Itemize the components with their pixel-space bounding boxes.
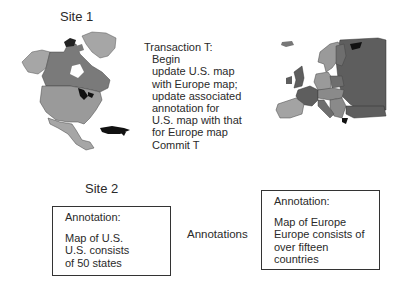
north-america-map [20,30,140,155]
annotation-europe-title: Annotation: [274,195,379,208]
transaction-line: annotation for [144,102,242,114]
transaction-line: U.S. map with that [144,114,242,126]
transaction-line: Commit T [144,139,242,151]
annotation-europe-line: countries [274,253,379,266]
annotation-us-title: Annotation: [65,211,170,224]
annotation-europe-box: Annotation: Map of Europe Europe consist… [261,190,380,270]
transaction-line: update U.S. map [144,65,242,77]
transaction-title: Transaction T: [144,41,242,53]
site-2-label: Site 2 [85,182,118,196]
transaction-line: with Europe map; [144,78,242,90]
site-1-label: Site 1 [60,10,93,24]
europe-map [272,38,390,124]
annotation-europe-line: Europe consists of [274,228,379,241]
transaction-line: update associated [144,90,242,102]
annotation-us-box: Annotation: Map of U.S. U.S. consists of… [52,206,171,276]
transaction-line: Begin [144,53,242,65]
annotation-us-line: Map of U.S. [65,232,170,245]
transaction-block: Transaction T: Begin update U.S. map wit… [144,41,242,151]
transaction-line: for Europe map [144,126,242,138]
annotation-europe-line: over fifteen [274,241,379,254]
annotation-us-line: of 50 states [65,257,170,270]
annotation-us-line: U.S. consists [65,244,170,257]
annotations-label: Annotations [187,227,248,241]
annotation-europe-line: Map of Europe [274,216,379,229]
